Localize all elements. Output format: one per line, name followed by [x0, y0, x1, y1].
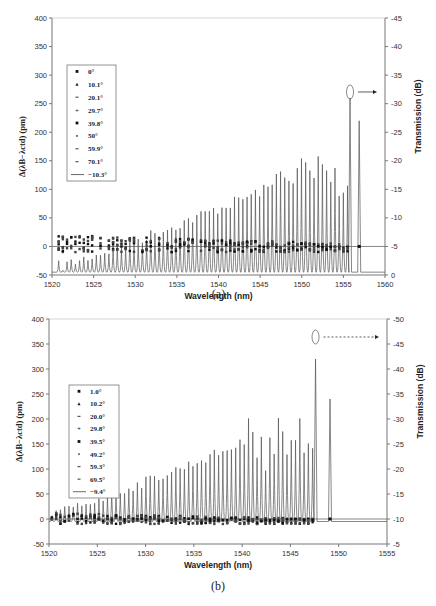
- data-point: [74, 251, 76, 253]
- data-point: [112, 241, 114, 243]
- data-point: [93, 519, 95, 521]
- data-point: [213, 523, 215, 525]
- data-point: [286, 522, 288, 524]
- data-point: [78, 235, 80, 237]
- x-tick-label: 1525: [85, 280, 102, 289]
- legend-label: 29.8°: [90, 425, 105, 433]
- data-point: [330, 248, 332, 250]
- data-point: [247, 520, 249, 522]
- legend-marker: [76, 97, 79, 98]
- data-point: [99, 247, 101, 249]
- data-point: [304, 241, 306, 243]
- data-point: [115, 515, 117, 517]
- data-point: [66, 241, 68, 243]
- y2-tick-label: -10: [391, 213, 402, 222]
- data-point: [179, 515, 181, 517]
- data-point: [175, 520, 177, 522]
- data-point: [191, 241, 193, 243]
- data-point: [334, 250, 336, 252]
- data-point: [313, 249, 315, 251]
- data-point: [106, 523, 108, 525]
- legend-label: −9.4°: [90, 488, 106, 496]
- data-point: [57, 249, 59, 251]
- data-point: [246, 240, 248, 242]
- data-point: [307, 519, 309, 521]
- data-point: [170, 517, 172, 519]
- y2-tick-label: -25: [393, 440, 404, 449]
- y2-tick-label: -30: [391, 99, 402, 108]
- y2-tick-label: -45: [393, 340, 404, 349]
- data-point: [64, 520, 66, 522]
- data-point: [303, 519, 305, 521]
- data-point: [85, 522, 87, 524]
- data-point: [170, 247, 172, 249]
- legend-marker: [78, 453, 80, 455]
- data-point: [250, 240, 252, 242]
- legend-label: 0°: [88, 68, 95, 76]
- legend-label: 69.5°: [90, 476, 105, 484]
- data-point: [55, 512, 57, 514]
- data-point: [59, 516, 61, 518]
- data-point: [250, 243, 252, 245]
- data-point: [129, 250, 131, 252]
- data-point: [200, 241, 202, 243]
- data-point: [317, 245, 319, 247]
- data-point: [183, 517, 185, 519]
- data-point: [288, 250, 290, 252]
- data-point: [226, 519, 228, 521]
- data-point: [242, 246, 244, 248]
- data-point: [296, 248, 298, 250]
- data-point: [229, 247, 231, 249]
- data-point: [250, 250, 252, 252]
- data-point: [311, 519, 313, 521]
- data-point: [225, 251, 227, 253]
- legend-marker: [76, 122, 79, 125]
- data-point: [149, 518, 151, 520]
- data-point: [334, 246, 336, 248]
- data-point: [269, 522, 271, 524]
- y2-tick-label: -15: [393, 490, 404, 499]
- legend-label: 49.2°: [90, 451, 105, 459]
- data-point: [263, 246, 265, 248]
- data-point: [57, 243, 59, 245]
- data-point: [264, 521, 266, 523]
- y2-tick-label: -5: [391, 242, 398, 251]
- data-point: [204, 244, 206, 246]
- data-point: [237, 248, 239, 250]
- data-point: [338, 248, 340, 250]
- data-point: [166, 244, 168, 246]
- legend-label: 20.1°: [88, 94, 103, 102]
- data-point: [145, 241, 147, 243]
- data-point: [179, 244, 181, 246]
- y2-tick-label: -10: [393, 515, 404, 524]
- data-point: [153, 518, 155, 520]
- data-point: [286, 518, 288, 520]
- legend-label: 59.9°: [88, 145, 103, 153]
- chart-panel-b: -50050100150200250300350400-5-10-15-20-2…: [14, 315, 425, 594]
- data-point: [129, 237, 131, 239]
- data-point: [221, 249, 223, 251]
- data-point: [158, 519, 160, 521]
- y2-axis-label: Transmission (dB): [415, 364, 425, 438]
- legend: 1.0°10.2°20.0°+29.8°39.5°49.2°59.3°69.5°…: [69, 385, 119, 498]
- y-tick-label: -50: [36, 271, 47, 280]
- y2-tick-label: -30: [393, 415, 404, 424]
- data-point: [83, 250, 85, 252]
- data-point: [62, 247, 64, 249]
- data-point: [102, 519, 104, 521]
- data-point: [85, 515, 87, 517]
- data-point: [76, 518, 78, 520]
- data-point: [338, 245, 340, 247]
- data-point: [158, 517, 160, 519]
- y-tick-label: 50: [39, 213, 47, 222]
- data-point: [128, 515, 130, 517]
- data-point: [196, 521, 198, 523]
- data-point: [59, 522, 61, 524]
- data-point: [74, 236, 76, 238]
- data-point: [282, 522, 284, 524]
- data-point: [81, 523, 83, 525]
- data-point: [183, 520, 185, 522]
- data-point: [237, 243, 239, 245]
- data-point: [279, 247, 281, 249]
- y2-tick-label: -35: [391, 71, 402, 80]
